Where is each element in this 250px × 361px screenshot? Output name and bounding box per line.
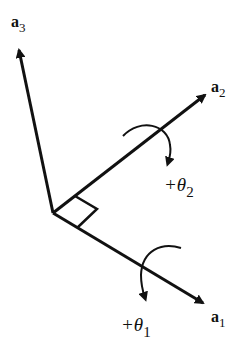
axis-a1	[53, 213, 203, 303]
right-angle-marker	[75, 196, 97, 228]
label-theta1: +θ1	[121, 314, 151, 340]
label-a1: a1	[211, 308, 226, 330]
axes-diagram: a3 a2 a1 +θ2 +θ1	[0, 0, 250, 361]
rotation-arrow-theta1	[141, 246, 181, 298]
label-a3: a3	[11, 13, 26, 35]
label-a2: a2	[211, 78, 226, 100]
rotation-arrow-theta2	[123, 125, 170, 163]
label-theta2: +θ2	[164, 174, 194, 200]
axis-a3	[19, 50, 53, 213]
